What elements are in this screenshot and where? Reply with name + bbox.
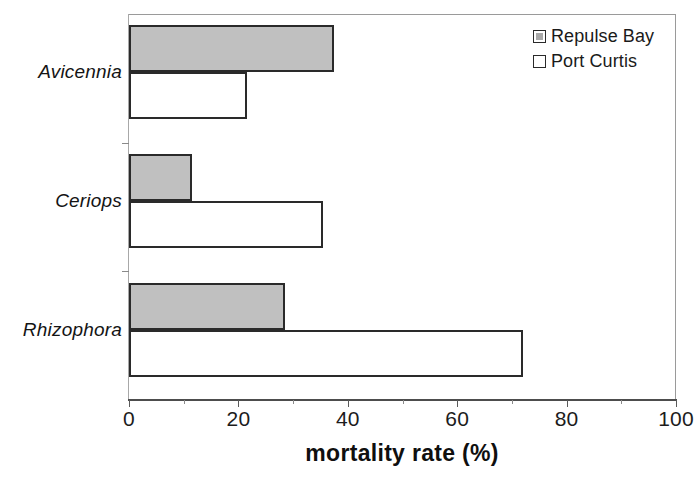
legend-label-repulse-bay: Repulse Bay [551,26,654,46]
category-tick [122,271,129,272]
x-tick-label-60: 60 [427,406,487,431]
bar-rhizophora-repulse-bay [129,283,285,330]
x-axis-title: mortality rate (%) [128,440,676,467]
chart-figure: AvicenniaCeriopsRhizophora 020406080100 … [0,0,695,488]
bar-rhizophora-port-curtis [129,330,523,377]
legend-label-port-curtis: Port Curtis [551,51,637,71]
legend-swatch-icon-repulse-bay [533,30,546,43]
x-tick-label-0: 0 [99,406,159,431]
category-label-ceriops: Ceriops [0,190,122,212]
bar-ceriops-port-curtis [129,201,323,248]
x-tick-label-40: 40 [318,406,378,431]
category-tick [122,143,129,144]
category-label-avicennia: Avicennia [0,61,122,83]
x-tick-minor [403,400,404,404]
bar-avicennia-port-curtis [129,72,247,119]
x-tick-minor [184,400,185,404]
x-tick-label-100: 100 [646,406,695,431]
legend: Repulse Bay Port Curtis [533,24,668,74]
category-label-rhizophora: Rhizophora [0,319,122,341]
x-tick-label-80: 80 [537,406,597,431]
bar-avicennia-repulse-bay [129,25,334,72]
legend-swatch-icon-port-curtis [533,55,546,68]
x-tick-minor [293,400,294,404]
legend-item-repulse-bay[interactable]: Repulse Bay [533,24,668,48]
x-tick-minor [621,400,622,404]
x-tick-label-20: 20 [208,406,268,431]
x-tick-minor [512,400,513,404]
bar-ceriops-repulse-bay [129,154,192,201]
legend-item-port-curtis[interactable]: Port Curtis [533,49,668,73]
